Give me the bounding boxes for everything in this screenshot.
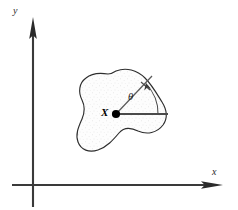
x-axis-label: x <box>212 167 216 177</box>
rigid-body-blob <box>77 69 166 151</box>
y-axis <box>29 17 37 207</box>
diagram-svg <box>0 0 238 210</box>
angle-label-theta: θ <box>128 92 133 103</box>
figure-canvas: y x X θ <box>0 0 238 210</box>
body-center-label: X <box>101 107 108 118</box>
x-axis <box>12 181 223 189</box>
body-center-dot <box>112 110 120 118</box>
y-axis-label: y <box>13 6 17 16</box>
